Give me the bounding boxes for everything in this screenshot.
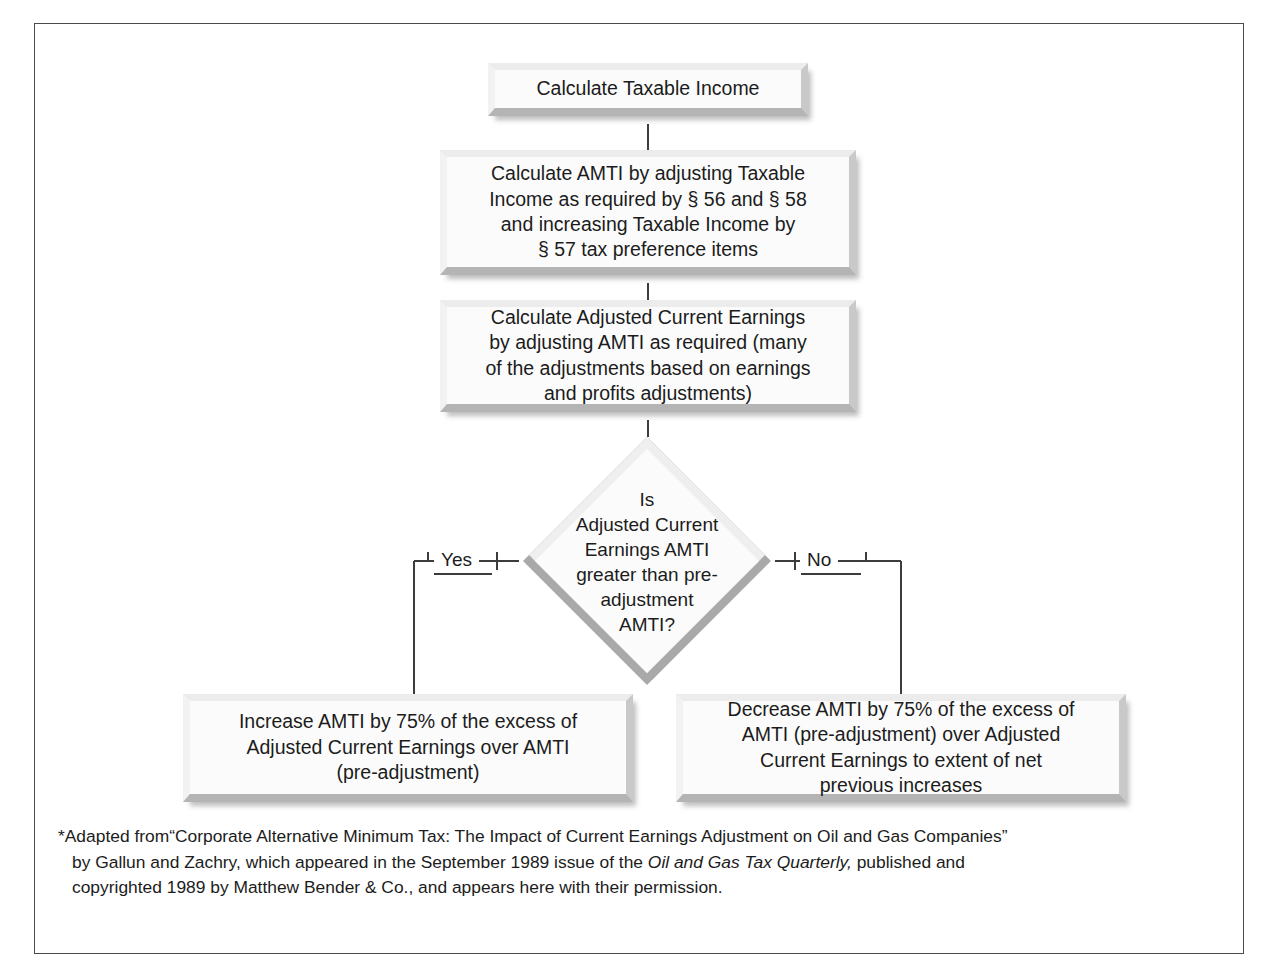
footnote-line-3: copyrighted 1989 by Matthew Bender & Co.… bbox=[58, 875, 1218, 901]
node-increase-amti: Increase AMTI by 75% of the excess of Ad… bbox=[183, 694, 633, 802]
footnote-line-2-pre: by Gallun and Zachry, which appeared in … bbox=[72, 852, 648, 872]
node-calculate-amti: Calculate AMTI by adjusting Taxable Inco… bbox=[440, 150, 856, 275]
footnote-line-1: *Adapted from“Corporate Alternative Mini… bbox=[58, 824, 1218, 850]
edge-label-yes: Yes bbox=[434, 550, 479, 571]
footnote-attribution: *Adapted from“Corporate Alternative Mini… bbox=[58, 824, 1218, 901]
footnote-journal-title: Oil and Gas Tax Quarterly, bbox=[648, 852, 852, 872]
node-label: Calculate AMTI by adjusting Taxable Inco… bbox=[479, 161, 817, 262]
node-label: Is Adjusted Current Earnings AMTI greate… bbox=[519, 433, 775, 689]
edge-label-no: No bbox=[800, 550, 838, 571]
node-calculate-adjusted-current-earnings: Calculate Adjusted Current Earnings by a… bbox=[440, 300, 856, 412]
page-root: Calculate Taxable Income Calculate AMTI … bbox=[0, 0, 1268, 967]
node-label: Increase AMTI by 75% of the excess of Ad… bbox=[229, 709, 587, 785]
footnote-line-2-post: published and bbox=[852, 852, 965, 872]
node-decrease-amti: Decrease AMTI by 75% of the excess of AM… bbox=[676, 694, 1126, 802]
node-label: Calculate Taxable Income bbox=[527, 76, 770, 101]
node-label: Decrease AMTI by 75% of the excess of AM… bbox=[718, 697, 1085, 798]
node-decision-ace-greater-than-amti: Is Adjusted Current Earnings AMTI greate… bbox=[519, 433, 775, 689]
node-calculate-taxable-income: Calculate Taxable Income bbox=[488, 63, 808, 116]
footnote-line-2: by Gallun and Zachry, which appeared in … bbox=[58, 850, 1218, 876]
node-label: Calculate Adjusted Current Earnings by a… bbox=[475, 305, 820, 406]
flowchart: Calculate Taxable Income Calculate AMTI … bbox=[0, 0, 1268, 967]
